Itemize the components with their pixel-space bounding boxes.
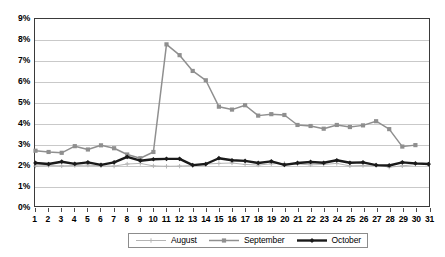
x-axis-tick-mark [140,208,141,212]
x-axis-tick-label: 17 [241,215,250,224]
data-point-marker [86,160,91,165]
data-point-marker [164,42,168,46]
x-axis-tick-mark [61,208,62,212]
x-axis-tick-label: 5 [85,215,90,224]
x-axis-tick-label: 9 [138,215,143,224]
y-axis-tick-label: 3% [18,140,30,149]
x-axis-tick-mark [232,208,233,212]
data-point-marker [178,53,182,57]
x-axis-tick-mark [35,208,36,212]
data-point-marker [73,144,77,148]
data-point-marker [230,158,235,163]
y-axis-tick-label: 1% [18,182,30,191]
chart-container: 0%1%2%3%4%5%6%7%8%9% 1234567891011121314… [0,0,445,257]
series-layer [35,19,429,206]
legend-swatch-graphic [208,236,240,245]
data-point-marker [400,144,404,148]
data-point-marker [334,158,339,163]
x-axis-tick-label: 22 [306,215,315,224]
data-point-marker [243,159,248,164]
data-point-marker [256,114,260,118]
x-axis-tick-mark [74,208,75,212]
legend-item-august[interactable]: August [135,236,197,245]
data-point-marker [151,157,156,162]
x-axis-tick-label: 27 [372,215,381,224]
x-axis-tick-mark [390,208,391,212]
legend-swatch-august [135,236,167,245]
x-axis-tick-label: 12 [175,215,184,224]
y-axis-tick-label: 9% [18,14,30,23]
y-axis-tick-label: 5% [18,98,30,107]
x-axis-tick-mark [430,208,431,212]
data-point-marker [374,163,379,168]
data-point-marker [60,164,64,168]
data-point-marker [335,123,339,127]
data-point-marker [348,160,353,165]
x-axis-tick-label: 1 [32,215,37,224]
x-axis-tick-mark [337,208,338,212]
data-point-marker [308,160,313,165]
x-axis-tick-label: 4 [72,215,77,224]
legend-item-september[interactable]: September [208,236,285,245]
y-axis: 0%1%2%3%4%5%6%7%8%9% [0,0,34,210]
x-axis-tick-mark [219,208,220,212]
y-axis-tick-label: 6% [18,77,30,86]
x-axis-tick-label: 25 [346,215,355,224]
legend-swatch-september [208,236,240,245]
x-axis-tick-mark [272,208,273,212]
series-line [35,44,415,158]
y-axis-tick-label: 8% [18,35,30,44]
data-point-marker [151,164,155,168]
x-axis-tick-mark [48,208,49,212]
data-point-marker [295,123,299,127]
x-axis-tick-mark [258,208,259,212]
y-axis-tick-label: 0% [18,203,30,212]
x-axis-tick-label: 8 [124,215,129,224]
data-point-marker [387,127,391,131]
x-axis-tick-mark [285,208,286,212]
data-point-marker [217,161,221,165]
y-axis-tick-label: 4% [18,119,30,128]
legend-swatch-graphic [135,236,167,245]
data-point-marker [282,113,286,117]
x-axis-tick-label: 31 [425,215,434,224]
data-point-marker [426,162,431,167]
data-point-marker [125,162,129,166]
data-point-marker [400,160,405,165]
x-axis-tick-label: 14 [201,215,210,224]
x-axis-tick-label: 15 [214,215,223,224]
x-axis-tick-mark [351,208,352,212]
legend-item-october[interactable]: October [296,236,362,245]
data-point-marker [164,156,169,161]
data-point-marker [309,238,314,243]
data-point-marker [269,112,273,116]
data-point-marker [374,119,378,123]
x-axis-tick-mark [206,208,207,212]
legend-swatch-graphic [296,236,328,245]
x-axis-tick-mark [416,208,417,212]
x-axis-tick-label: 28 [385,215,394,224]
x-axis-tick-label: 23 [320,215,329,224]
x-axis-tick-label: 18 [254,215,263,224]
chart-legend: August September October [128,233,368,248]
x-axis-tick-label: 16 [227,215,236,224]
x-axis-tick-mark [153,208,154,212]
x-axis-tick-label: 24 [333,215,342,224]
x-axis-tick-mark [311,208,312,212]
x-axis-tick-label: 26 [359,215,368,224]
data-point-marker [204,78,208,82]
data-point-marker [177,164,181,168]
data-point-marker [217,105,221,109]
x-axis-tick-label: 29 [399,215,408,224]
data-point-marker [222,238,226,242]
y-axis-tick-label: 7% [18,56,30,65]
x-axis-tick-mark [179,208,180,212]
data-point-marker [361,123,365,127]
data-point-marker [99,162,104,167]
x-axis-tick-mark [87,208,88,212]
data-point-marker [112,146,116,150]
data-point-marker [33,161,38,166]
data-point-marker [99,143,103,147]
x-axis-tick-label: 21 [293,215,302,224]
data-point-marker [361,160,366,165]
